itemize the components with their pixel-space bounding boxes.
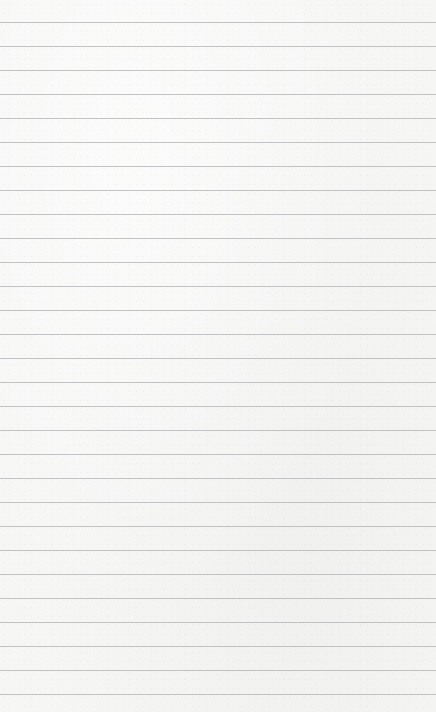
ruled-line [0, 358, 436, 359]
ruled-line [0, 46, 436, 47]
ruled-line [0, 238, 436, 239]
ruled-line [0, 502, 436, 503]
ruled-line [0, 334, 436, 335]
ruled-line [0, 526, 436, 527]
ruled-line [0, 142, 436, 143]
ruled-line [0, 166, 436, 167]
lined-paper-sheet [0, 0, 436, 712]
ruled-line [0, 694, 436, 695]
ruled-line [0, 190, 436, 191]
ruled-line [0, 94, 436, 95]
ruled-line [0, 310, 436, 311]
ruled-line [0, 262, 436, 263]
ruled-line [0, 22, 436, 23]
ruled-line [0, 454, 436, 455]
ruled-line [0, 574, 436, 575]
ruled-line [0, 430, 436, 431]
ruled-line [0, 70, 436, 71]
ruled-line [0, 550, 436, 551]
ruled-line [0, 214, 436, 215]
ruled-line [0, 118, 436, 119]
ruled-line [0, 406, 436, 407]
ruled-line [0, 598, 436, 599]
ruled-line [0, 670, 436, 671]
ruled-line [0, 646, 436, 647]
ruled-line [0, 382, 436, 383]
ruled-line [0, 478, 436, 479]
ruled-line [0, 622, 436, 623]
ruled-line [0, 286, 436, 287]
